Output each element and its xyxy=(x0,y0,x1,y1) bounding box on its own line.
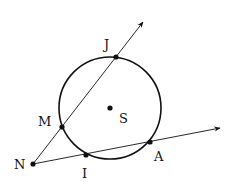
point-n xyxy=(30,161,35,166)
point-a xyxy=(147,139,152,144)
label-a: A xyxy=(153,149,164,164)
ray-na xyxy=(33,128,220,164)
ray-nj xyxy=(33,22,143,164)
points-group xyxy=(30,54,152,166)
label-m: M xyxy=(38,114,51,129)
point-j xyxy=(113,54,118,59)
label-j: J xyxy=(102,37,109,52)
point-s xyxy=(107,105,112,110)
label-n: N xyxy=(14,157,25,172)
point-m xyxy=(59,124,64,129)
label-i: I xyxy=(82,166,87,181)
label-s: S xyxy=(119,111,128,126)
geometry-diagram: JMNIAS xyxy=(0,0,233,189)
point-i xyxy=(83,152,88,157)
diagram-canvas: JMNIAS xyxy=(0,0,233,189)
